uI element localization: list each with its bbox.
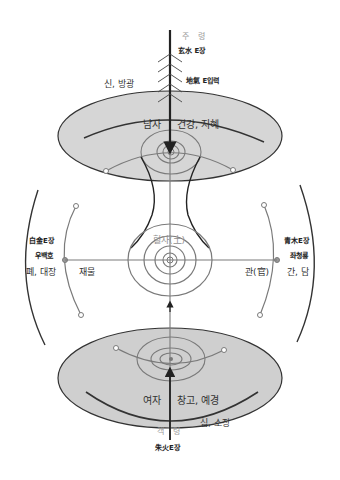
bottom-energy-source-label: 朱火E장 [155, 445, 180, 452]
kidney-bladder-label: 신, 방광 [104, 80, 134, 89]
bottom-direction-label: 객 령 [157, 428, 183, 436]
left-energy-source-label: 白金E장 [29, 238, 54, 245]
right-organs-label: 간, 담 [287, 268, 309, 277]
left-attribute-label: 재물 [79, 268, 95, 277]
bottom-ellipse-right-label: 창고, 예경 [177, 396, 219, 406]
top-ellipse-right-label: 건강, 지혜 [177, 120, 219, 130]
heart-small-intestine-label: 심, 소장 [200, 419, 230, 428]
top-input-label: 地氣 E입력 [186, 78, 219, 85]
top-direction-label: 주 령 [182, 33, 208, 41]
top-ellipse-left-label: 남자 [143, 120, 161, 130]
top-energy-source-label: 玄水 E장 [178, 48, 205, 55]
left-organs-label: 폐, 대장 [26, 268, 56, 277]
outer-right-arc [297, 185, 314, 342]
left-guardian-label: 우백호 [35, 253, 53, 260]
bottom-ellipse-left-label: 여자 [143, 396, 161, 406]
center-label: 혈자(土) [153, 236, 185, 245]
right-energy-source-label: 青木E장 [284, 238, 309, 245]
right-attribute-label: 관(官) [245, 268, 269, 277]
right-guardian-label: 좌청룡 [290, 253, 308, 260]
